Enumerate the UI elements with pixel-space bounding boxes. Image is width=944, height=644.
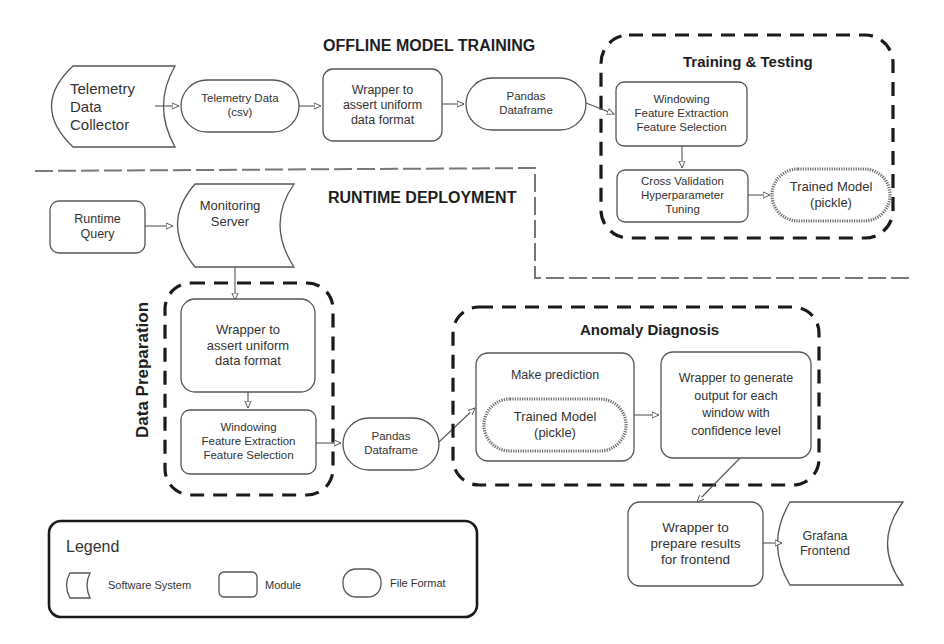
cross-validation-label: Cross Validation Hyperparameter Tuning	[617, 170, 748, 222]
trained-model-runtime-label: Trained Model (pickle)	[484, 399, 626, 451]
legend-file-format-label: File Format	[390, 574, 470, 594]
training-testing-title: Training & Testing	[683, 53, 813, 70]
telemetry-collector-label: Telemetry Data Collector	[70, 68, 120, 146]
legend-software-system-label: Software System	[108, 576, 218, 596]
trained-model-offline-label: Trained Model (pickle)	[772, 169, 890, 221]
wrapper-uniform-offline-label: Wrapper to assert uniform data format	[323, 69, 442, 141]
runtime-deployment-title: RUNTIME DEPLOYMENT	[328, 189, 516, 207]
wrapper-prepare-label: Wrapper to prepare results for frontend	[628, 502, 763, 586]
pandas-runtime-label: Pandas Dataframe	[343, 418, 439, 470]
legend-file-format-icon	[343, 569, 381, 597]
legend-module-icon	[219, 572, 257, 597]
windowing-offline-label: Windowing Feature Extraction Feature Sel…	[616, 82, 747, 146]
monitoring-server-label: Monitoring Server	[180, 184, 280, 244]
make-prediction-label: Make prediction	[476, 362, 634, 388]
legend-title: Legend	[66, 534, 146, 560]
legend-module-label: Module	[265, 576, 335, 596]
wrapper-uniform-runtime-label: Wrapper to assert uniform data format	[181, 299, 315, 392]
legend-software-system-icon	[67, 573, 91, 598]
wrapper-generate-label: Wrapper to generate output for each wind…	[661, 352, 811, 458]
anomaly-diagnosis-title: Anomaly Diagnosis	[580, 321, 719, 338]
telemetry-csv-label: Telemetry Data (csv)	[181, 80, 299, 132]
windowing-runtime-label: Windowing Feature Extraction Feature Sel…	[181, 410, 316, 474]
pandas-offline-label: Pandas Dataframe	[466, 78, 586, 130]
offline-training-title: OFFLINE MODEL TRAINING	[323, 37, 535, 55]
runtime-query-label: Runtime Query	[50, 201, 145, 253]
grafana-label: Grafana Frontend	[775, 502, 875, 586]
data-preparation-title: Data Preparation	[133, 302, 153, 438]
